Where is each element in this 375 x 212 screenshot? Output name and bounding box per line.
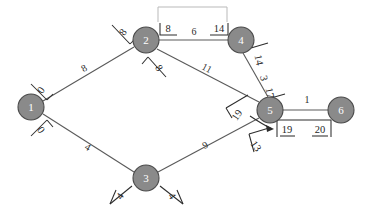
ann-node4-top-label: 14 xyxy=(214,23,225,34)
ann-node5-result-label: 19 xyxy=(282,124,293,135)
rule-node1-lower-base xyxy=(47,120,53,127)
node-3[interactable]: 3 xyxy=(133,165,159,191)
node-6[interactable]: 6 xyxy=(328,97,354,123)
edge-group xyxy=(43,40,328,172)
node-group: 1 2 3 4 5 6 xyxy=(18,27,354,191)
node-3-label: 3 xyxy=(143,172,149,184)
ann-node1-upper-label: 0 xyxy=(35,85,47,96)
node-5-label: 5 xyxy=(267,104,273,116)
rule-node5-left xyxy=(226,95,248,108)
rule-node5-lower xyxy=(249,128,269,134)
top-bracket-marks xyxy=(158,7,227,22)
edge-weight-1-2: 8 xyxy=(79,62,89,74)
ann-node5-left-label: 19 xyxy=(229,108,244,123)
node-1[interactable]: 1 xyxy=(18,94,44,120)
graph-svg: 8 4 6 11 9 1 xyxy=(0,0,375,212)
node-2-label: 2 xyxy=(143,34,149,46)
rule-node2-lower-base xyxy=(142,57,148,64)
ann-node2-upper-label: 8 xyxy=(117,27,129,38)
ann-node45-label-14: 14 xyxy=(253,54,266,67)
node-1-label: 1 xyxy=(28,101,34,113)
edge-1-2 xyxy=(43,47,134,101)
node-6-label: 6 xyxy=(338,104,344,116)
ann-node2-top-label: 8 xyxy=(165,23,170,34)
annotation-rule-group xyxy=(31,23,331,204)
rule-node1-upper-base xyxy=(47,94,53,100)
diagram-canvas: 8 4 6 11 9 1 xyxy=(0,0,375,212)
edge-3-5 xyxy=(158,118,259,172)
node-4-label: 4 xyxy=(238,34,244,46)
edge-2-5 xyxy=(157,49,259,102)
ann-node45-label-3: 3 xyxy=(258,74,270,81)
node-2[interactable]: 2 xyxy=(133,27,159,53)
edge-weight-5-6: 1 xyxy=(305,94,310,105)
ann-node6-result-label: 20 xyxy=(315,124,326,135)
edge-weight-2-4: 6 xyxy=(192,26,197,37)
ann-node1-lower-label: 0 xyxy=(35,125,47,136)
edge-weight-1-3: 4 xyxy=(83,141,93,153)
node-5[interactable]: 5 xyxy=(257,97,283,123)
node-4[interactable]: 4 xyxy=(228,27,254,53)
